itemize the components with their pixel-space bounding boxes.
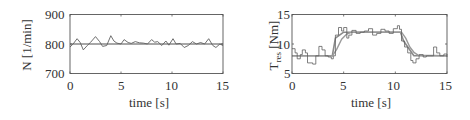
filtered-line [292,32,447,56]
measured-line [70,36,223,50]
reference-line [292,32,447,56]
torque-plot-area [235,0,470,120]
torque-chart-panel: Tres [Nm] 15 10 5 0 5 10 15 time [s] [235,0,470,120]
speed-plot-area [0,0,235,120]
speed-chart-panel: N [1/min] 900 800 700 0 5 10 15 time [s] [0,0,235,120]
axes-frame [292,15,447,74]
